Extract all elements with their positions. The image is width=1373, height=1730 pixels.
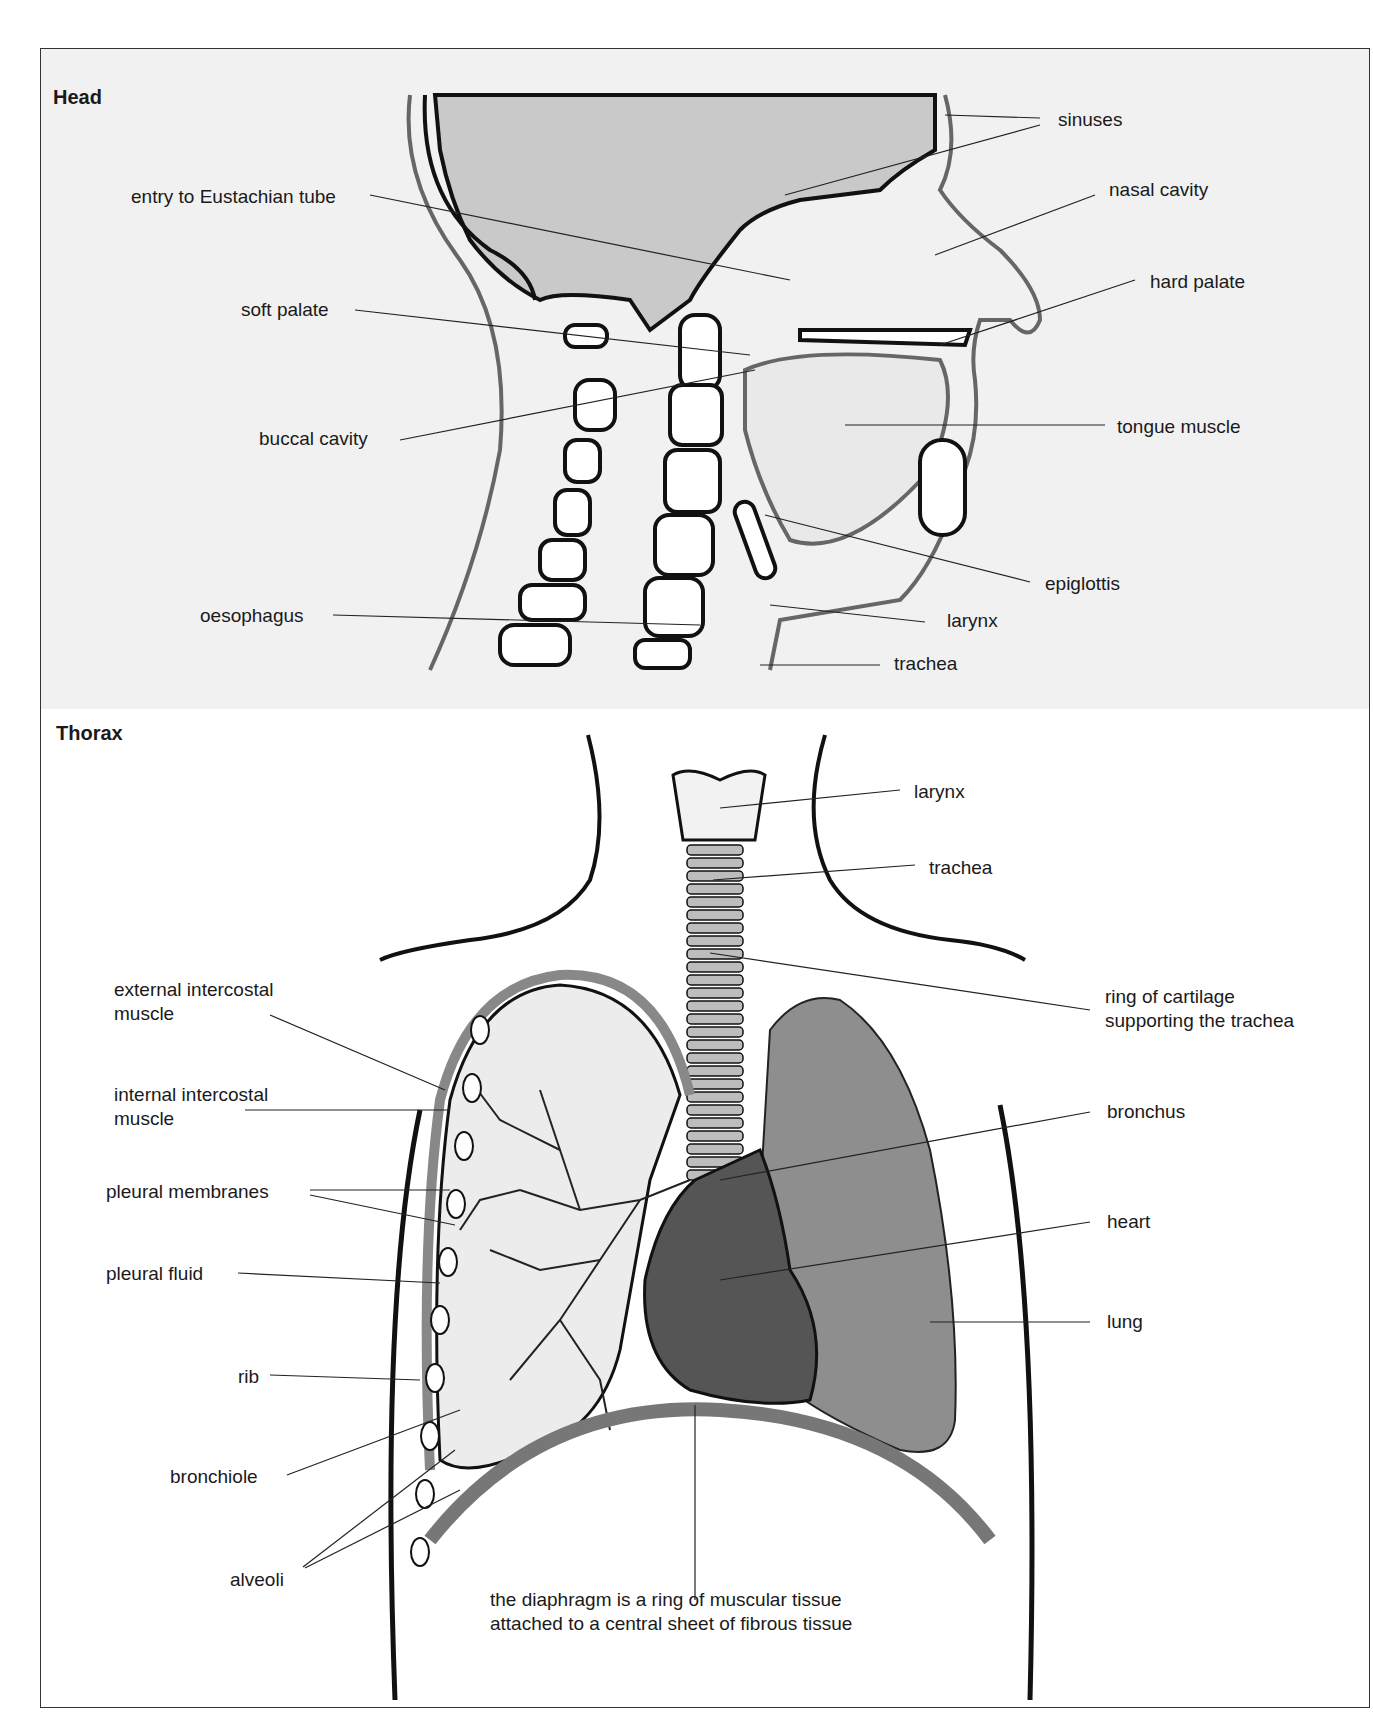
body-outline-left — [380, 735, 600, 960]
rib-cross-section — [463, 1074, 481, 1102]
rib-cross-section — [439, 1248, 457, 1276]
cartilage-ring — [687, 858, 743, 868]
label-trachea-thorax: trachea — [929, 856, 992, 880]
rib-cross-section — [431, 1306, 449, 1334]
body-outline-right — [814, 735, 1025, 960]
cartilage-ring — [687, 1014, 743, 1024]
label-ring-of-cartilage: ring of cartilage supporting the trachea — [1105, 985, 1294, 1033]
cartilage-ring — [687, 1040, 743, 1050]
cartilage-ring — [687, 910, 743, 920]
cartilage-ring — [687, 936, 743, 946]
label-pleural-fluid: pleural fluid — [106, 1262, 203, 1286]
larynx-shape — [673, 771, 765, 840]
cartilage-ring — [687, 1118, 743, 1128]
label-lung: lung — [1107, 1310, 1143, 1334]
label-larynx-thorax: larynx — [914, 780, 965, 804]
cartilage-ring — [687, 962, 743, 972]
label-bronchus: bronchus — [1107, 1100, 1185, 1124]
rib-cross-section — [471, 1016, 489, 1044]
rib-cross-section — [426, 1364, 444, 1392]
cartilage-ring — [687, 988, 743, 998]
label-heart: heart — [1107, 1210, 1150, 1234]
cartilage-ring — [687, 1079, 743, 1089]
cartilage-ring — [687, 884, 743, 894]
rib-cross-section — [447, 1190, 465, 1218]
cartilage-ring — [687, 1092, 743, 1102]
cartilage-ring — [687, 1001, 743, 1011]
chest-wall-right — [1000, 1105, 1032, 1700]
cartilage-ring — [687, 897, 743, 907]
cartilage-ring — [687, 1066, 743, 1076]
cartilage-ring — [687, 845, 743, 855]
label-rib: rib — [238, 1365, 259, 1389]
cartilage-ring — [687, 1144, 743, 1154]
label-external-intercostal: external intercostal muscle — [114, 978, 273, 1026]
cartilage-ring — [687, 1027, 743, 1037]
cartilage-ring — [687, 923, 743, 933]
cartilage-ring — [687, 1131, 743, 1141]
chest-wall-left — [391, 1110, 420, 1700]
right-lung-cutaway — [437, 985, 680, 1468]
rib-cross-section — [421, 1422, 439, 1450]
label-diaphragm: the diaphragm is a ring of muscular tiss… — [490, 1588, 852, 1636]
label-pleural-membranes: pleural membranes — [106, 1180, 269, 1204]
rib-cross-section — [411, 1538, 429, 1566]
trachea-rings — [687, 845, 743, 1180]
label-internal-intercostal: internal intercostal muscle — [114, 1083, 268, 1131]
thorax-leader-lines — [238, 790, 1090, 1600]
cartilage-ring — [687, 975, 743, 985]
label-alveoli: alveoli — [230, 1568, 284, 1592]
cartilage-ring — [687, 1053, 743, 1063]
cartilage-ring — [687, 1105, 743, 1115]
rib-cross-section — [455, 1132, 473, 1160]
label-bronchiole: bronchiole — [170, 1465, 258, 1489]
